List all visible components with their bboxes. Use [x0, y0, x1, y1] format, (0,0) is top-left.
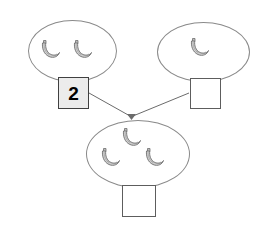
- banana-icon: [185, 36, 211, 60]
- banana-icon: [36, 38, 62, 62]
- worksheet-canvas: 2: [0, 0, 263, 232]
- banana-icon: [96, 146, 122, 170]
- banana-icon: [140, 146, 166, 170]
- connector-left-to-sum: [89, 93, 130, 116]
- sum-box[interactable]: [122, 185, 156, 217]
- banana-icon: [68, 38, 94, 62]
- first-addend-box[interactable]: 2: [58, 77, 89, 109]
- connector-right-to-sum: [133, 93, 189, 116]
- second-addend-box[interactable]: [190, 78, 221, 109]
